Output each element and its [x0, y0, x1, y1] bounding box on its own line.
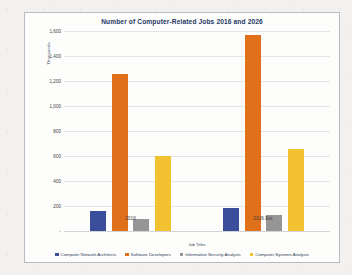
y-axis-tick-label: 200 [53, 204, 61, 209]
chart-container: Number of Computer-Related Jobs 2016 and… [24, 12, 340, 263]
gridline [64, 231, 330, 232]
scanned-page-background: Number of Computer-Related Jobs 2016 and… [0, 0, 352, 275]
bar [90, 211, 106, 231]
x-axis-title: Job Titles [64, 242, 330, 247]
plot-area: -2004006008001,0001,2001,4001,600 [64, 31, 330, 231]
y-axis-tick-label: 400 [53, 179, 61, 184]
y-axis-tick-label: 800 [53, 129, 61, 134]
legend-swatch-icon [125, 253, 129, 257]
y-axis-tick-label: 1,000 [50, 104, 62, 109]
y-axis-tick-label: 1,600 [50, 29, 62, 34]
bar [223, 208, 239, 231]
bar [245, 35, 261, 231]
x-axis-category-label: 2016 [125, 216, 136, 221]
legend-label: Software Developers [131, 252, 171, 257]
legend-swatch-icon [250, 253, 254, 257]
legend-swatch-icon [180, 253, 184, 257]
x-axis-category-label: 2026 Est. [253, 216, 273, 221]
bar [288, 149, 304, 232]
y-axis-tick-label: 600 [53, 154, 61, 159]
chart-legend: Computer Network ArchitectsSoftware Deve… [31, 252, 333, 257]
bar [155, 156, 171, 231]
bar-series-group [64, 31, 330, 231]
chart-title: Number of Computer-Related Jobs 2016 and… [25, 18, 339, 25]
legend-item[interactable]: Software Developers [125, 252, 170, 257]
bar [112, 74, 128, 231]
legend-item[interactable]: Computer Systems Analysts [250, 252, 309, 257]
legend-label: Information Security Analysts [185, 252, 240, 257]
legend-swatch-icon [55, 253, 59, 257]
y-axis-tick-label: - [59, 229, 61, 234]
y-axis-tick-label: 1,400 [50, 54, 62, 59]
legend-item[interactable]: Information Security Analysts [180, 252, 241, 257]
legend-label: Computer Network Architects [61, 252, 117, 257]
legend-item[interactable]: Computer Network Architects [55, 252, 116, 257]
y-axis-tick-label: 1,200 [50, 79, 62, 84]
legend-label: Computer Systems Analysts [255, 252, 309, 257]
